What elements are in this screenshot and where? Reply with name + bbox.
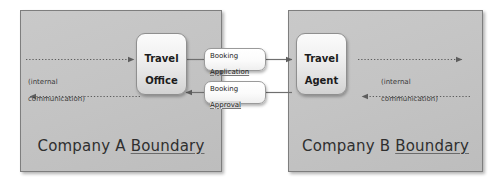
message-booking-approval-label: Booking Approval	[210, 77, 241, 109]
message-booking-approval[interactable]: Booking Approval	[204, 81, 266, 104]
actor-travel-agent-label: Travel Agent	[304, 42, 338, 86]
actor-travel-agent-line2: Agent	[305, 75, 339, 86]
message-booking-application-line1: Booking	[210, 52, 238, 60]
caption-internal-communication-b-line1: (internal	[381, 78, 411, 86]
actor-travel-office[interactable]: Travel Office	[136, 33, 187, 95]
actor-travel-office-label: Travel Office	[144, 42, 178, 86]
message-booking-application[interactable]: Booking Application	[204, 48, 266, 71]
caption-internal-communication-b-line2: communication)	[381, 95, 438, 103]
message-booking-approval-line1: Booking	[210, 85, 238, 93]
actor-travel-agent[interactable]: Travel Agent	[296, 33, 347, 95]
caption-internal-communication-a-line1: (internal	[28, 78, 58, 86]
boundary-company-a-label-prefix: Company A	[37, 137, 130, 155]
actor-travel-office-line1: Travel	[144, 53, 178, 64]
diagram-canvas: Company A Boundary Company B Boundary	[0, 0, 502, 188]
caption-internal-communication-a-line2: communication)	[28, 95, 85, 103]
boundary-company-a-label-underlined: Boundary	[131, 137, 205, 155]
boundary-company-b-label: Company B Boundary	[289, 137, 482, 155]
caption-internal-communication-b: (internal communication)	[381, 69, 438, 103]
boundary-company-a-label: Company A Boundary	[21, 137, 221, 155]
message-booking-application-line2: Application	[210, 68, 249, 76]
actor-travel-agent-line1: Travel	[304, 53, 338, 64]
message-booking-approval-line2: Approval	[210, 101, 241, 109]
boundary-company-b-label-prefix: Company B	[302, 137, 395, 155]
boundary-company-b-label-underlined: Boundary	[395, 137, 469, 155]
message-booking-application-label: Booking Application	[210, 44, 249, 76]
actor-travel-office-line2: Office	[145, 75, 177, 86]
caption-internal-communication-a: (internal communication)	[28, 69, 85, 103]
